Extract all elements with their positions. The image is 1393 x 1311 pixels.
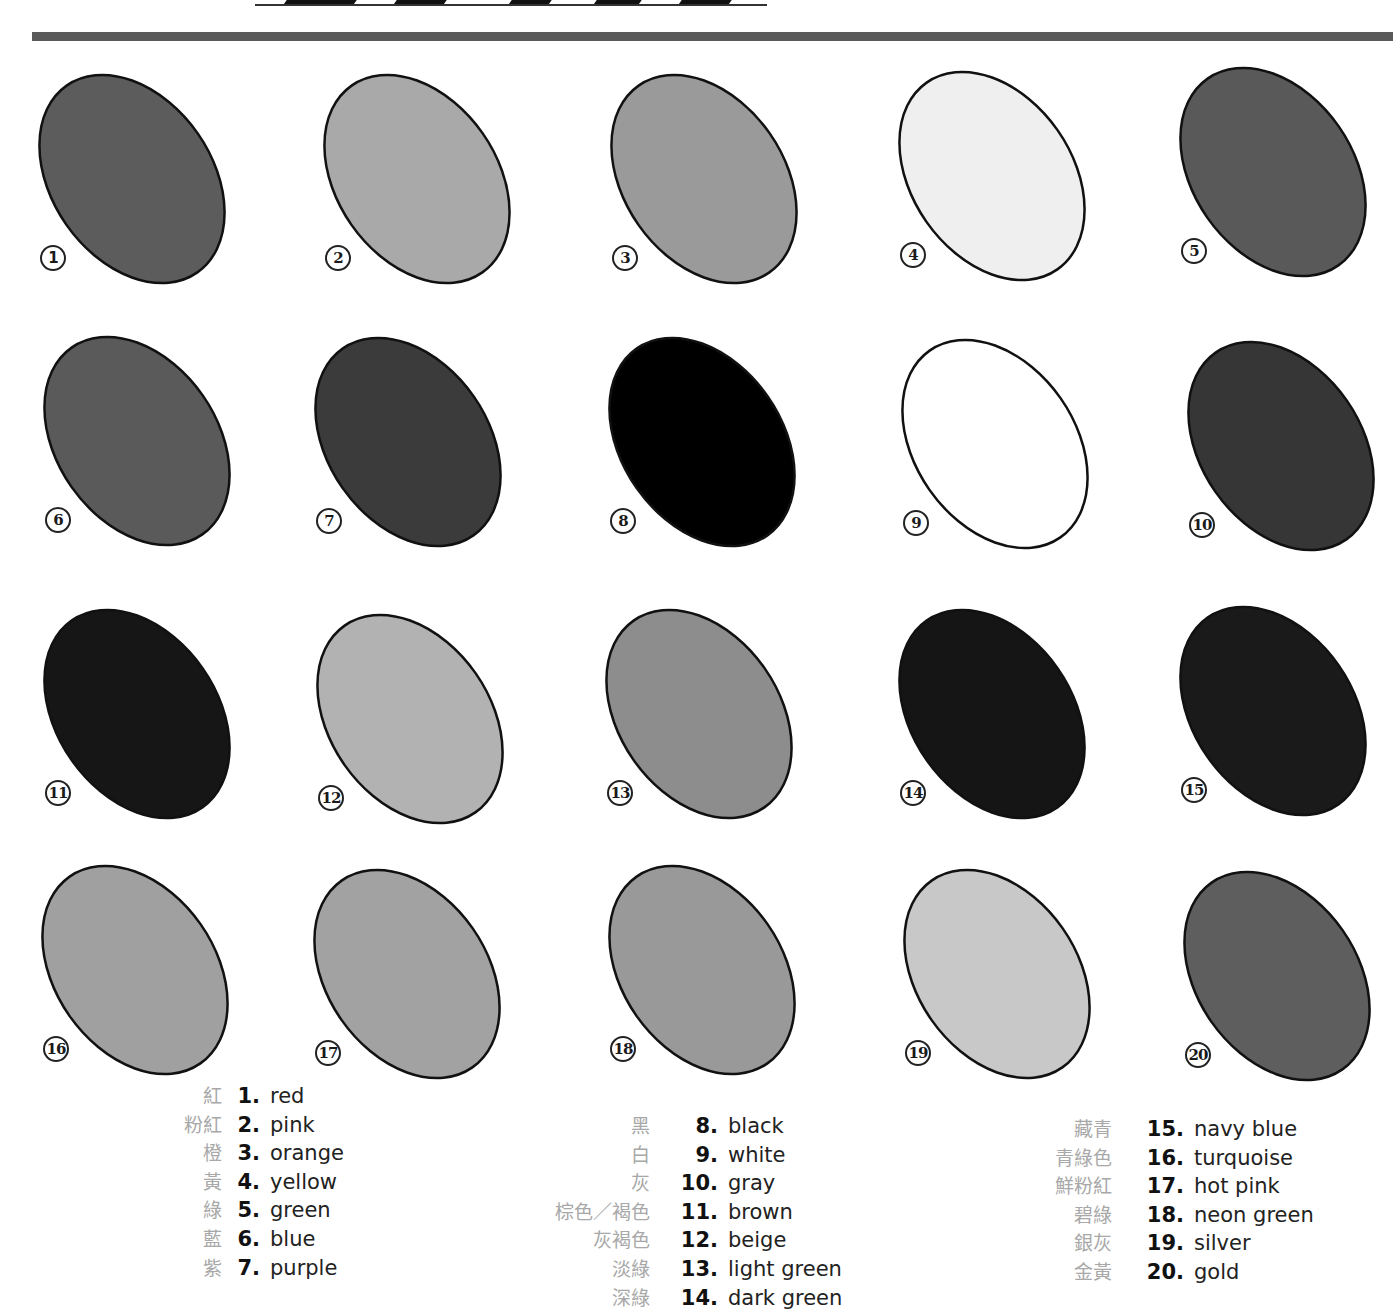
legend-english-name: turquoise [1194, 1144, 1293, 1172]
legend-number: 14. [662, 1284, 718, 1311]
color-swatch-20: 20 [1185, 872, 1375, 1087]
legend-column-2: 黑8.black白9.white灰10.gray棕色／褐色11.brown灰褐色… [662, 1112, 842, 1311]
swatch-number-badge: 1 [40, 245, 66, 271]
legend-number: 2. [234, 1111, 260, 1139]
color-swatch-15: 15 [1181, 607, 1371, 822]
legend-item: 金黃20.gold [1124, 1258, 1314, 1287]
legend-chinese-name: 灰 [631, 1169, 650, 1197]
swatch-number-badge: 20 [1185, 1042, 1211, 1068]
legend-chinese-name: 淡綠 [612, 1255, 650, 1283]
legend-chinese-name: 青綠色 [1055, 1144, 1112, 1172]
swatch-number-badge: 19 [905, 1040, 931, 1066]
swatch-oval [905, 870, 1095, 1085]
legend-english-name: beige [728, 1226, 786, 1254]
legend-number: 7. [234, 1254, 260, 1282]
legend-english-name: neon green [1194, 1201, 1314, 1229]
swatch-oval [607, 610, 797, 825]
legend-english-name: gold [1194, 1258, 1239, 1286]
legend-english-name: blue [270, 1225, 315, 1253]
color-swatch-19: 19 [905, 870, 1095, 1085]
swatch-number-badge: 4 [900, 242, 926, 268]
legend-number: 6. [234, 1225, 260, 1253]
legend-item: 深綠14.dark green [662, 1284, 842, 1311]
swatch-oval [315, 870, 505, 1085]
legend-chinese-name: 藍 [203, 1225, 222, 1253]
legend-number: 17. [1124, 1172, 1184, 1200]
swatch-number-badge: 2 [325, 245, 351, 271]
legend-english-name: white [728, 1141, 785, 1169]
legend-number: 18. [1124, 1201, 1184, 1229]
swatch-oval [318, 615, 508, 830]
color-swatch-2: 2 [325, 75, 515, 290]
legend-chinese-name: 碧綠 [1074, 1201, 1112, 1229]
legend-chinese-name: 灰褐色 [593, 1226, 650, 1254]
legend-item: 藍6.blue [234, 1225, 344, 1254]
swatch-oval [43, 866, 233, 1081]
top-illustration-fragment [255, 0, 767, 6]
legend-english-name: hot pink [1194, 1172, 1280, 1200]
legend-number: 3. [234, 1139, 260, 1167]
swatch-number-badge: 11 [45, 780, 71, 806]
illustration-baseline [255, 4, 767, 6]
color-swatch-8: 8 [610, 338, 800, 553]
color-swatch-11: 11 [45, 610, 235, 825]
legend-english-name: purple [270, 1254, 337, 1282]
color-swatch-7: 7 [316, 338, 506, 553]
swatch-oval [1185, 872, 1375, 1087]
color-swatch-12: 12 [318, 615, 508, 830]
legend-chinese-name: 藏青 [1074, 1115, 1112, 1143]
legend-item: 灰褐色12.beige [662, 1226, 842, 1255]
legend-english-name: gray [728, 1169, 775, 1197]
legend-number: 8. [662, 1112, 718, 1140]
legend-item: 淡綠13.light green [662, 1255, 842, 1284]
swatch-oval [903, 340, 1093, 555]
legend-chinese-name: 黑 [631, 1112, 650, 1140]
legend-number: 11. [662, 1198, 718, 1226]
legend-item: 紫7.purple [234, 1254, 344, 1283]
legend-number: 12. [662, 1226, 718, 1254]
legend-chinese-name: 粉紅 [184, 1111, 222, 1139]
legend-item: 棕色／褐色11.brown [662, 1198, 842, 1227]
legend-number: 5. [234, 1196, 260, 1224]
color-swatch-18: 18 [610, 866, 800, 1081]
legend-item: 藏青15.navy blue [1124, 1115, 1314, 1144]
legend-item: 紅1.red [234, 1082, 344, 1111]
swatch-oval [45, 337, 235, 552]
swatch-oval [610, 866, 800, 1081]
swatch-number-badge: 14 [900, 780, 926, 806]
legend-item: 粉紅2.pink [234, 1111, 344, 1140]
legend-number: 1. [234, 1082, 260, 1110]
legend-english-name: navy blue [1194, 1115, 1297, 1143]
swatch-number-badge: 18 [610, 1036, 636, 1062]
swatch-number-badge: 6 [45, 507, 71, 533]
legend-chinese-name: 白 [631, 1141, 650, 1169]
swatch-number-badge: 12 [318, 785, 344, 811]
legend-number: 19. [1124, 1229, 1184, 1257]
swatch-number-badge: 16 [43, 1036, 69, 1062]
color-swatch-16: 16 [43, 866, 233, 1081]
color-swatch-10: 10 [1189, 342, 1379, 557]
swatch-number-badge: 3 [612, 245, 638, 271]
color-swatch-4: 4 [900, 72, 1090, 287]
swatch-oval [40, 75, 230, 290]
swatch-oval [45, 610, 235, 825]
color-swatch-17: 17 [315, 870, 505, 1085]
legend-number: 20. [1124, 1258, 1184, 1286]
swatch-oval [1181, 607, 1371, 822]
swatch-number-badge: 17 [315, 1040, 341, 1066]
legend-chinese-name: 紅 [203, 1082, 222, 1110]
color-swatch-14: 14 [900, 610, 1090, 825]
color-swatch-9: 9 [903, 340, 1093, 555]
legend-number: 15. [1124, 1115, 1184, 1143]
legend-item: 黑8.black [662, 1112, 842, 1141]
legend-number: 10. [662, 1169, 718, 1197]
legend-item: 碧綠18.neon green [1124, 1201, 1314, 1230]
legend-column-3: 藏青15.navy blue青綠色16.turquoise鮮粉紅17.hot p… [1124, 1115, 1314, 1287]
legend-english-name: yellow [270, 1168, 337, 1196]
swatch-oval [316, 338, 506, 553]
legend-chinese-name: 鮮粉紅 [1055, 1172, 1112, 1200]
color-swatch-1: 1 [40, 75, 230, 290]
swatch-oval [900, 72, 1090, 287]
swatch-oval [612, 75, 802, 290]
legend-item: 青綠色16.turquoise [1124, 1144, 1314, 1173]
